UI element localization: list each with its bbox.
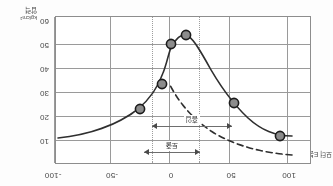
x-tick-4: -100: [45, 171, 62, 180]
arrow-left-icon: [195, 149, 200, 155]
y-tick-5: 60: [40, 18, 49, 27]
figure-canvas: 모터 E분정 100 50 0 -50 -100 10 20 30 40 50 …: [0, 0, 333, 186]
x-tick-3: -50: [106, 171, 118, 180]
y-axis-title: kg/cm² 압력: [21, 6, 38, 22]
y-tick-4: 50: [40, 42, 49, 51]
y-tick-2: 30: [40, 90, 49, 99]
data-point: [135, 104, 144, 113]
x-tick-0: 100: [282, 171, 296, 180]
arrow-right-icon: [152, 123, 157, 129]
solid-curve: [58, 35, 292, 138]
data-point-markers: [135, 30, 284, 140]
x-tick-1: 50: [226, 171, 235, 180]
data-point: [157, 79, 166, 88]
y-axis-name: 압력: [25, 7, 37, 14]
y-tick-3: 40: [40, 66, 49, 75]
plot-area: 토출 흡입: [55, 16, 311, 164]
y-tick-1: 20: [40, 114, 49, 123]
arrow-right-icon: [144, 149, 149, 155]
arrow-left-icon: [227, 123, 232, 129]
data-point: [166, 39, 175, 48]
y-axis-unit: kg/cm²: [21, 14, 38, 22]
annotation-label: 흡입: [184, 115, 200, 125]
data-point: [229, 98, 238, 107]
rotated-content: 모터 E분정 100 50 0 -50 -100 10 20 30 40 50 …: [0, 0, 333, 186]
data-point: [275, 131, 284, 140]
curves-svg: [54, 15, 310, 163]
x-tick-2: 0: [169, 171, 174, 180]
annotation-label: 토출: [164, 141, 180, 151]
data-point: [181, 30, 190, 39]
y-tick-0: 10: [40, 138, 49, 147]
annotation-span-discharge: 토출: [144, 152, 200, 153]
annotation-span-suction: 흡입: [152, 126, 232, 127]
